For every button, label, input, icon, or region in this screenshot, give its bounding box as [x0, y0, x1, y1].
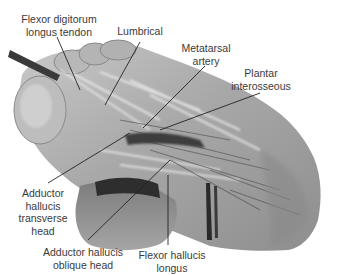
label-line: transverse — [14, 212, 72, 225]
anatomy-figure: Flexor digitorum longus tendon Lumbrical… — [0, 0, 346, 275]
label-flexor-digitorum-longus-tendon: Flexor digitorum longus tendon — [14, 13, 104, 38]
label-line: hallucis — [14, 200, 72, 213]
label-lumbrical: Lumbrical — [112, 25, 168, 38]
label-line: head — [14, 225, 72, 238]
label-line: Lumbrical — [112, 25, 168, 38]
label-flexor-hallucis-longus: Flexor hallucis longus — [132, 249, 212, 274]
label-line: interosseous — [228, 80, 294, 93]
label-line: Flexor hallucis — [132, 249, 212, 262]
label-metatarsal-artery: Metatarsal artery — [178, 42, 234, 67]
label-line: Plantar — [228, 67, 294, 80]
label-line: Adductor hallucis — [38, 246, 128, 259]
label-line: artery — [178, 55, 234, 68]
label-line: longus — [132, 262, 212, 275]
label-line: Metatarsal — [178, 42, 234, 55]
label-adductor-hallucis-transverse-head: Adductor hallucis transverse head — [14, 187, 72, 237]
label-line: oblique head — [38, 259, 128, 272]
label-line: longus tendon — [14, 26, 104, 39]
label-plantar-interosseous: Plantar interosseous — [228, 67, 294, 92]
label-line: Adductor — [14, 187, 72, 200]
label-adductor-hallucis-oblique-head: Adductor hallucis oblique head — [38, 246, 128, 271]
label-line: Flexor digitorum — [14, 13, 104, 26]
